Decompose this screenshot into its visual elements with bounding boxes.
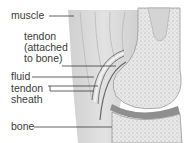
label-tendon: tendon (attached to bone) bbox=[24, 31, 68, 64]
label-fluid: fluid bbox=[11, 71, 30, 82]
label-bone: bone bbox=[11, 121, 34, 132]
label-tendon-sheath: tendon sheath bbox=[11, 83, 43, 105]
label-muscle: muscle bbox=[11, 10, 44, 21]
